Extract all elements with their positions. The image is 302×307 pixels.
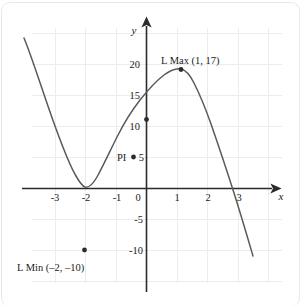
y-tick-label--10: -10 — [129, 245, 143, 256]
x-tick-label--2: -2 — [82, 192, 91, 203]
cubic-function-graph: y x -3 -2 -1 0 1 2 3 20 15 10 5 -5 -10 L… — [0, 0, 302, 307]
x-axis-label: x — [278, 190, 284, 202]
y-tick-label-15: 15 — [130, 90, 141, 101]
y-axis-label: y — [131, 24, 137, 36]
marker-local-maximum — [179, 67, 184, 72]
local-maximum-label: L Max (1, 17) — [161, 55, 220, 67]
marker-y-intercept — [144, 117, 149, 122]
x-tick-label--1: -1 — [113, 192, 122, 203]
x-tick-label-2: 2 — [205, 192, 210, 203]
y-tick-label-10: 10 — [130, 121, 141, 132]
marker-local-minimum — [82, 248, 87, 253]
x-tick-label--3: -3 — [51, 192, 60, 203]
y-tick-label--5: -5 — [134, 214, 143, 225]
marker-point-of-inflection — [131, 155, 136, 160]
y-tick-label-20: 20 — [130, 59, 141, 70]
y-tick-label-5: 5 — [139, 152, 144, 163]
chart-card: y x -3 -2 -1 0 1 2 3 20 15 10 5 -5 -10 L… — [0, 0, 302, 307]
local-minimum-label: L Min (–2, –10) — [17, 262, 85, 274]
plot-background — [32, 28, 282, 283]
x-tick-label-0: 0 — [135, 192, 140, 203]
x-tick-label-3: 3 — [236, 192, 241, 203]
point-of-inflection-label: PI — [117, 152, 127, 163]
x-tick-label-1: 1 — [174, 192, 179, 203]
